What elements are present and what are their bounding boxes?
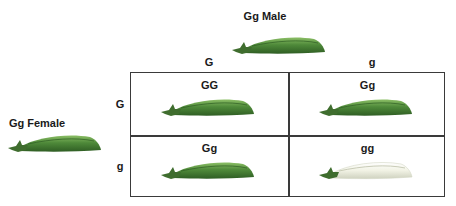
column-allele-g: g <box>369 56 376 68</box>
male-parent-label: Gg Male <box>244 10 287 22</box>
punnett-cell-GG: GG <box>131 73 288 135</box>
genotype-label: GG <box>201 79 218 91</box>
female-parent-label: Gg Female <box>9 117 65 129</box>
row-allele-g: g <box>117 160 124 172</box>
punnett-square: GG Gg Gg gg <box>130 72 445 197</box>
green-pod-icon <box>159 95 255 117</box>
green-pod-icon <box>159 158 255 180</box>
column-allele-G: G <box>205 56 214 68</box>
punnett-cell-Gg-bottom: Gg <box>131 136 288 198</box>
punnett-cell-Gg-top: Gg <box>289 73 446 135</box>
row-allele-G: G <box>116 98 125 110</box>
genotype-label: Gg <box>202 142 217 154</box>
genotype-label: Gg <box>360 79 375 91</box>
green-pod-icon <box>230 33 326 55</box>
green-pod-icon <box>317 95 413 117</box>
green-pod-icon <box>6 131 102 153</box>
white-pod-icon <box>317 158 413 180</box>
punnett-cell-gg: gg <box>289 136 446 198</box>
genotype-label: gg <box>361 142 374 154</box>
